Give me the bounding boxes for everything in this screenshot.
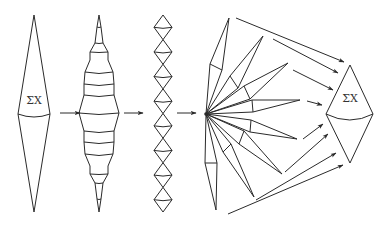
- diagram-canvas: ΣX ΣX: [0, 0, 388, 226]
- diamond-chain: [154, 15, 172, 212]
- stacked-spindle: [79, 15, 119, 212]
- merged-spindle: ΣX: [326, 65, 373, 163]
- sum-label-right: ΣX: [342, 92, 358, 105]
- single-spindle: ΣX: [18, 15, 50, 212]
- fan-of-spikes: [204, 18, 300, 210]
- sum-label-left: ΣX: [26, 94, 42, 107]
